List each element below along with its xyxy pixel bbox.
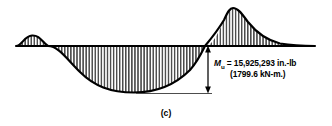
moment-value-imperial: 15,925,293 in.-lb [234, 58, 297, 68]
moment-diagram-figure: Mu = 15,925,293 in.-lb (1799.6 kN-m.) (c… [0, 0, 332, 126]
dimension-arrowhead-down-icon [205, 87, 211, 94]
figure-caption: (c) [0, 108, 332, 118]
moment-symbol: M [214, 58, 221, 68]
moment-value-metric-label: (1799.6 kN-m.) [230, 69, 285, 79]
moment-value-imperial-label: Mu = 15,925,293 in.-lb [214, 58, 296, 70]
hatch-negative-midspan [46, 44, 208, 96]
moment-equals: = [225, 58, 234, 68]
